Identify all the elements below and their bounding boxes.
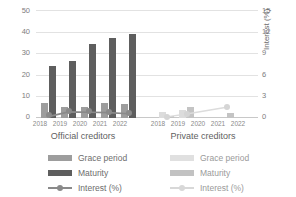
y-axis-left-tick: 40 — [6, 28, 30, 36]
legend-item-maturity: Maturity — [170, 165, 249, 180]
bar-maturity — [89, 44, 96, 118]
interest-marker-2020 — [86, 108, 92, 114]
x-tick-official-2019: 2019 — [49, 120, 71, 127]
y-axis-right-tick: 0 — [262, 113, 286, 121]
x-tick-private-2018: 2018 — [147, 120, 169, 127]
bar-group-2022 — [120, 10, 140, 118]
bar-group-2020 — [80, 10, 100, 118]
bar-group-2020 — [198, 10, 218, 118]
bar-group-2021 — [100, 10, 120, 118]
bar-group-2018 — [40, 10, 60, 118]
plot-area — [36, 10, 258, 118]
y-axis-left-tick: 20 — [6, 71, 30, 79]
legend-swatch-grace-icon — [48, 155, 72, 161]
legend-item-grace-period: Grace period — [48, 150, 127, 165]
bar-maturity — [49, 66, 56, 118]
legend-label-maturity: Maturity — [78, 168, 108, 178]
interest-marker-2021 — [106, 109, 112, 115]
y-axis-left-tick: 30 — [6, 49, 30, 57]
y-axis-right-tick: 3 — [262, 92, 286, 100]
legend-label-interest: Interest (%) — [200, 183, 244, 193]
x-tick-private-2019: 2019 — [167, 120, 189, 127]
interest-marker-2018 — [164, 114, 170, 120]
bar-maturity — [129, 34, 136, 118]
group-label-private: Private creditors — [148, 131, 258, 141]
interest-marker-2019 — [184, 111, 190, 117]
x-tick-private-2020: 2020 — [187, 120, 209, 127]
group-private-creditors — [158, 10, 258, 118]
bar-maturity — [109, 38, 116, 118]
bar-maturity — [227, 113, 234, 118]
legend-official: Grace period Maturity Interest (%) — [48, 150, 127, 195]
interest-marker-2019 — [66, 108, 72, 114]
legend-swatch-interest-line-icon — [48, 185, 72, 191]
y-axis-left-title: Years — [0, 46, 1, 66]
interest-marker-2022 — [126, 110, 132, 116]
group-official-creditors — [40, 10, 140, 118]
x-tick-private-2022: 2022 — [227, 120, 249, 127]
legend-item-maturity: Maturity — [48, 165, 127, 180]
bar-group-2018 — [158, 10, 178, 118]
legend-label-maturity: Maturity — [200, 168, 230, 178]
legend-swatch-grace-icon — [170, 155, 194, 161]
legend-label-interest: Interest (%) — [78, 183, 122, 193]
y-axis-left-tick: 50 — [6, 7, 30, 15]
bar-group-2022 — [238, 10, 258, 118]
chart-legend: Grace period Maturity Interest (%) Grace… — [0, 150, 296, 197]
y-axis-right-tick: 9 — [262, 49, 286, 57]
legend-swatch-interest-line-icon — [170, 185, 194, 191]
x-tick-private-2021: 2021 — [207, 120, 229, 127]
legend-swatch-maturity-icon — [48, 170, 72, 176]
x-tick-official-2021: 2021 — [89, 120, 111, 127]
interest-marker-2021 — [224, 104, 230, 110]
legend-swatch-maturity-icon — [170, 170, 194, 176]
interest-marker-2018 — [46, 112, 52, 118]
legend-item-interest: Interest (%) — [48, 180, 127, 195]
grouped-bar-chart: 50 40 30 20 10 0 15 12 9 6 3 0 Years Int… — [0, 0, 296, 197]
y-axis-left-tick: 0 — [6, 113, 30, 121]
x-tick-official-2018: 2018 — [29, 120, 51, 127]
legend-item-interest: Interest (%) — [170, 180, 249, 195]
legend-label-grace-period: Grace period — [200, 153, 249, 163]
x-tick-official-2020: 2020 — [69, 120, 91, 127]
bar-group-2021 — [218, 10, 238, 118]
y-axis-right-title: Interest (%) — [262, 9, 271, 50]
group-label-official: Official creditors — [28, 131, 138, 141]
bar-group-2019 — [178, 10, 198, 118]
legend-private: Grace period Maturity Interest (%) — [170, 150, 249, 195]
legend-item-grace-period: Grace period — [170, 150, 249, 165]
x-tick-official-2022: 2022 — [109, 120, 131, 127]
bar-group-2019 — [60, 10, 80, 118]
y-axis-left-tick: 10 — [6, 92, 30, 100]
legend-label-grace-period: Grace period — [78, 153, 127, 163]
y-axis-right-tick: 6 — [262, 71, 286, 79]
